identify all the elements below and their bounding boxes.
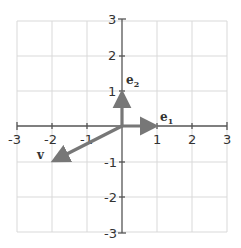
x-tick-label: 1 — [153, 132, 161, 147]
label-e1: e1 — [160, 110, 173, 126]
label-v: v — [36, 148, 45, 162]
y-tick-label: -1 — [104, 155, 117, 170]
x-tick-label: 3 — [223, 132, 231, 147]
y-tick-label: -2 — [104, 190, 117, 205]
vectors — [55, 94, 154, 160]
vector-diagram: -3 -2 -1 1 2 3 3 2 1 -1 -2 -3 e1 e2 v — [0, 0, 241, 248]
x-tick-label: 2 — [188, 132, 196, 147]
x-tick-labels: -3 -2 -1 1 2 3 — [8, 132, 231, 147]
y-tick-label: 1 — [108, 84, 116, 99]
label-e2: e2 — [126, 73, 139, 89]
y-tick-label: 2 — [108, 48, 116, 63]
y-tick-label: 3 — [108, 12, 116, 27]
y-tick-label: -3 — [104, 226, 117, 241]
x-tick-label: -3 — [8, 132, 21, 147]
x-tick-label: -2 — [44, 132, 57, 147]
